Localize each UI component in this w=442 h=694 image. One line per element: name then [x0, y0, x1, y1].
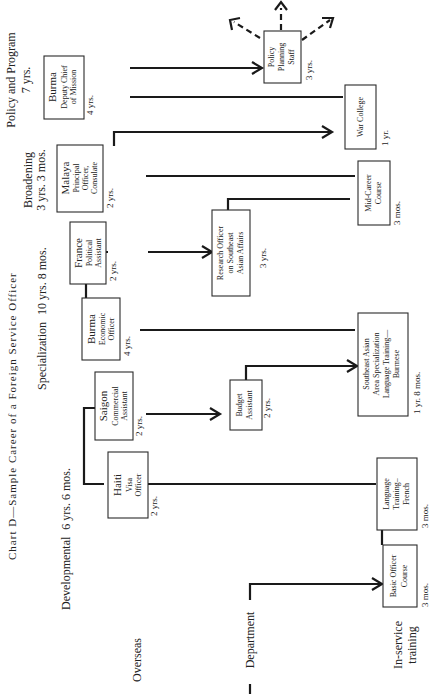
duration: 3 mos. — [420, 583, 430, 607]
svg-text:French: French — [402, 483, 411, 505]
svg-text:on Southeast: on Southeast — [226, 232, 235, 274]
svg-text:Visa: Visa — [125, 477, 134, 492]
track-department: Department — [243, 611, 257, 694]
duration: 3 mos. — [392, 201, 402, 225]
svg-text:Assistant: Assistant — [120, 391, 129, 421]
svg-text:Haiti: Haiti — [111, 474, 123, 496]
svg-text:Officer,: Officer, — [81, 166, 90, 191]
svg-text:Saigon: Saigon — [97, 390, 109, 421]
phase-broadening: Broadening 3 yrs. 3 mos. — [21, 149, 48, 211]
box-language-training-french: Language Training– French 3 mos. — [377, 458, 430, 530]
phase-name: Developmental — [59, 536, 73, 610]
box-policy-planning-staff: Policy Planning Staff 3 yrs. — [264, 31, 314, 83]
svg-text:Course: Course — [374, 181, 383, 204]
career-diagram: Chart D—Sample Career of a Foreign Servi… — [0, 0, 442, 694]
svg-text:Economic: Economic — [98, 312, 107, 345]
box-saigon-commercial-assistant: Saigon Commercial Assistant 2 yrs. — [95, 372, 144, 440]
phase-duration: 7 yrs. — [19, 67, 33, 94]
box-budget-assistant: Budget Assistant 2 yrs. — [230, 380, 272, 430]
duration: 2 yrs. — [262, 398, 272, 418]
duration: 3 yrs. — [258, 248, 268, 268]
box-mid-career-course: Mid-Career Course 3 mos. — [358, 161, 402, 225]
duration: 1 yr. 8 mos. — [412, 372, 422, 414]
track-in-service: In-service training — [391, 621, 419, 669]
svg-text:Asian Affairs: Asian Affairs — [236, 232, 245, 275]
svg-text:Burma: Burma — [85, 314, 97, 344]
duration: 4 yrs. — [122, 336, 132, 356]
box-malaya-principal-officer: Malaya Principal Officer, Consulate 2 yr… — [57, 145, 115, 212]
duration: 2 yrs. — [108, 261, 118, 281]
duration: 3 mos. — [420, 504, 430, 528]
phase-specialization: Specialization 10 yrs. 8 mos. — [35, 247, 49, 390]
box-research-officer-southeast-asian-affairs: Research Officer on Southeast Asian Affa… — [212, 210, 268, 296]
svg-text:Research Officer: Research Officer — [216, 226, 225, 281]
svg-text:Mid-Career: Mid-Career — [364, 174, 373, 212]
svg-text:Language Training—: Language Training— — [382, 329, 391, 399]
svg-text:Consulate: Consulate — [90, 162, 99, 194]
svg-text:Southeast Asian: Southeast Asian — [362, 338, 371, 389]
svg-text:Training–: Training– — [392, 477, 401, 509]
svg-text:Area Specialization: Area Specialization — [372, 333, 381, 396]
duration: 3 yrs. — [304, 60, 314, 80]
svg-text:Burma: Burma — [46, 72, 58, 102]
phase-duration: 3 yrs. 3 mos. — [34, 149, 48, 211]
svg-text:Language: Language — [382, 478, 391, 510]
phase-name: Broadening — [21, 152, 35, 208]
svg-text:training: training — [405, 626, 419, 663]
phase-developmental: Developmental 6 yrs. 6 mos. — [59, 468, 73, 610]
svg-text:Assistant: Assistant — [94, 238, 103, 268]
svg-text:Staff: Staff — [287, 49, 296, 65]
duration: 1 yr. — [380, 130, 390, 146]
phase-name: Specialization — [35, 322, 49, 390]
duration: 2 yrs. — [134, 416, 144, 436]
phase-name: Policy and Program — [4, 32, 18, 128]
svg-text:Policy: Policy — [267, 47, 276, 67]
chart-title: Chart D—Sample Career of a Foreign Servi… — [6, 272, 18, 560]
box-france-political-assistant: France Political Assistant 2 yrs. — [70, 222, 118, 284]
phase-policy-program: Policy and Program 7 yrs. — [4, 32, 33, 128]
duration: 2 yrs. — [149, 496, 159, 516]
svg-text:Basic Officer: Basic Officer — [389, 554, 398, 597]
duration: 2 yrs. — [105, 188, 115, 208]
box-southeast-asian-language-training-burmese: Southeast Asian Area Specialization Lang… — [358, 313, 422, 416]
svg-text:Political: Political — [85, 239, 94, 266]
svg-text:In-service: In-service — [391, 621, 405, 669]
svg-text:Commercial: Commercial — [111, 385, 120, 425]
phase-duration: 6 yrs. 6 mos. — [59, 468, 73, 530]
svg-text:Planning: Planning — [277, 43, 286, 71]
svg-text:Department: Department — [243, 611, 257, 668]
box-war-college: War College 1 yr. — [345, 85, 390, 149]
svg-text:Deputy Chief: Deputy Chief — [60, 65, 69, 109]
svg-text:War College: War College — [356, 97, 365, 137]
svg-text:Malaya: Malaya — [59, 161, 71, 194]
track-overseas: Overseas — [130, 638, 144, 682]
phase-duration: 10 yrs. 8 mos. — [35, 247, 49, 315]
svg-text:Budget: Budget — [235, 393, 244, 417]
svg-text:Course: Course — [400, 564, 409, 587]
svg-text:Principal: Principal — [72, 163, 81, 193]
svg-text:Burmese: Burmese — [392, 349, 401, 378]
svg-text:of Mission: of Mission — [69, 70, 78, 104]
svg-text:Officer: Officer — [134, 473, 143, 496]
svg-text:Assistant: Assistant — [245, 390, 254, 420]
svg-text:Developmental 6 yrs. 6 m: Developmental 6 yrs. 6 mos. — [59, 468, 73, 610]
box-burma-economic-officer: Burma Economic Officer 4 yrs. — [82, 298, 132, 360]
box-burma-deputy-chief-of-mission: Burma Deputy Chief of Mission 4 yrs. — [44, 56, 95, 119]
duration: 4 yrs. — [85, 95, 95, 115]
box-basic-officer-course: Basic Officer Course 3 mos. — [383, 545, 430, 607]
svg-text:Specialization 10 yrs. 8: Specialization 10 yrs. 8 mos. — [35, 247, 49, 390]
svg-text:France: France — [72, 238, 84, 268]
svg-text:Officer: Officer — [107, 317, 116, 340]
